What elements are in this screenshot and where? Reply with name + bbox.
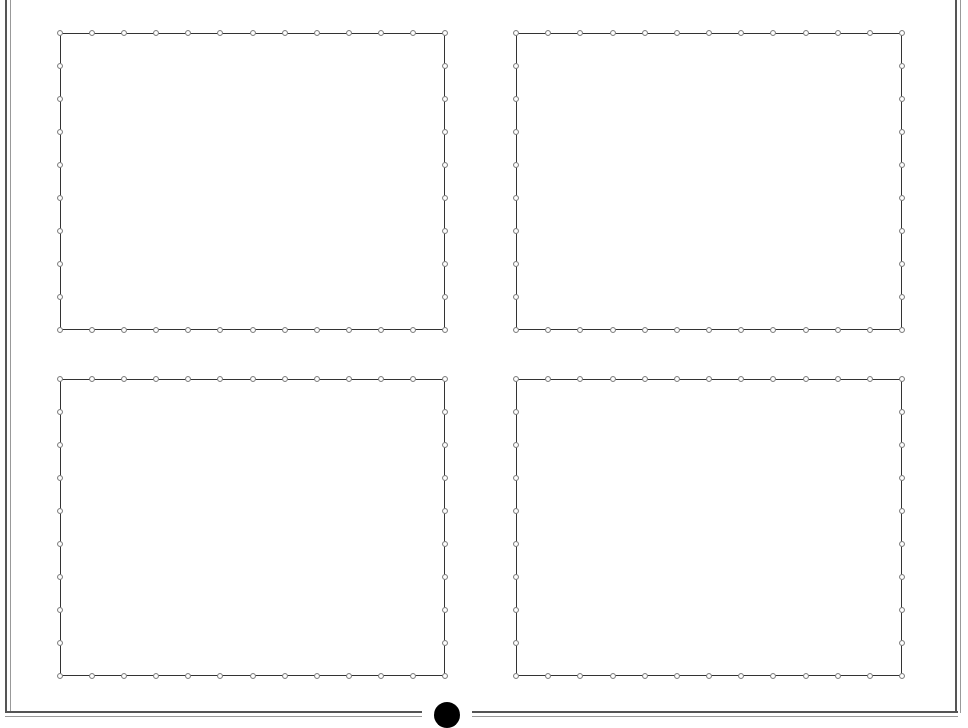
edge-marker-icon — [282, 376, 288, 382]
edge-marker-icon — [867, 673, 873, 679]
panel-top-left — [60, 33, 445, 330]
edge-marker-icon — [513, 640, 519, 646]
edge-marker-icon — [610, 376, 616, 382]
frame-bottom-border-left — [5, 711, 422, 717]
edge-marker-icon — [577, 673, 583, 679]
edge-marker-icon — [513, 376, 519, 382]
edge-marker-icon — [57, 574, 63, 580]
edge-marker-icon — [442, 195, 448, 201]
edge-marker-icon — [513, 228, 519, 234]
edge-marker-icon — [57, 63, 63, 69]
panel-bottom-left — [60, 379, 445, 676]
edge-marker-icon — [442, 574, 448, 580]
edge-marker-icon — [674, 376, 680, 382]
edge-marker-icon — [513, 294, 519, 300]
edge-marker-icon — [410, 30, 416, 36]
edge-marker-icon — [442, 541, 448, 547]
edge-marker-icon — [89, 673, 95, 679]
edge-marker-icon — [513, 30, 519, 36]
edge-marker-icon — [513, 195, 519, 201]
edge-marker-icon — [442, 228, 448, 234]
edge-marker-icon — [442, 129, 448, 135]
edge-marker-icon — [442, 442, 448, 448]
edge-marker-icon — [899, 376, 905, 382]
edge-marker-icon — [346, 327, 352, 333]
edge-marker-icon — [314, 376, 320, 382]
edge-marker-icon — [610, 673, 616, 679]
edge-marker-icon — [513, 129, 519, 135]
edge-marker-icon — [803, 327, 809, 333]
edge-marker-icon — [867, 327, 873, 333]
edge-marker-icon — [899, 574, 905, 580]
edge-marker-icon — [442, 673, 448, 679]
edge-marker-icon — [153, 327, 159, 333]
edge-marker-icon — [121, 673, 127, 679]
edge-marker-icon — [314, 673, 320, 679]
edge-marker-icon — [642, 327, 648, 333]
edge-marker-icon — [899, 96, 905, 102]
edge-marker-icon — [57, 607, 63, 613]
edge-marker-icon — [442, 327, 448, 333]
edge-marker-icon — [835, 327, 841, 333]
edge-marker-icon — [674, 327, 680, 333]
edge-marker-icon — [346, 376, 352, 382]
edge-marker-icon — [513, 673, 519, 679]
edge-marker-icon — [738, 327, 744, 333]
edge-marker-icon — [57, 30, 63, 36]
edge-marker-icon — [185, 327, 191, 333]
edge-marker-icon — [57, 294, 63, 300]
frame-left-border — [5, 0, 11, 713]
edge-marker-icon — [442, 63, 448, 69]
edge-marker-icon — [706, 673, 712, 679]
edge-marker-icon — [899, 228, 905, 234]
edge-marker-icon — [57, 409, 63, 415]
edge-marker-icon — [314, 327, 320, 333]
edge-marker-icon — [642, 673, 648, 679]
edge-marker-icon — [410, 673, 416, 679]
edge-marker-icon — [610, 327, 616, 333]
edge-marker-icon — [899, 195, 905, 201]
edge-marker-icon — [57, 673, 63, 679]
edge-marker-icon — [513, 508, 519, 514]
edge-marker-icon — [513, 541, 519, 547]
edge-marker-icon — [282, 673, 288, 679]
edge-marker-icon — [770, 327, 776, 333]
edge-marker-icon — [513, 327, 519, 333]
edge-marker-icon — [899, 607, 905, 613]
edge-marker-icon — [89, 327, 95, 333]
edge-marker-icon — [57, 376, 63, 382]
edge-marker-icon — [346, 673, 352, 679]
edge-marker-icon — [899, 541, 905, 547]
edge-marker-icon — [577, 327, 583, 333]
edge-marker-icon — [57, 261, 63, 267]
edge-marker-icon — [57, 96, 63, 102]
edge-marker-icon — [899, 409, 905, 415]
edge-marker-icon — [642, 30, 648, 36]
edge-marker-icon — [442, 475, 448, 481]
edge-marker-icon — [378, 376, 384, 382]
edge-marker-icon — [378, 327, 384, 333]
edge-marker-icon — [803, 30, 809, 36]
edge-marker-icon — [250, 376, 256, 382]
edge-marker-icon — [314, 30, 320, 36]
edge-marker-icon — [153, 673, 159, 679]
edge-marker-icon — [899, 475, 905, 481]
edge-marker-icon — [57, 228, 63, 234]
edge-marker-icon — [410, 376, 416, 382]
edge-marker-icon — [513, 261, 519, 267]
edge-marker-icon — [738, 673, 744, 679]
edge-marker-icon — [835, 673, 841, 679]
center-dot — [434, 702, 460, 728]
edge-marker-icon — [442, 261, 448, 267]
edge-marker-icon — [835, 30, 841, 36]
edge-marker-icon — [899, 162, 905, 168]
panel-bottom-right — [516, 379, 902, 676]
edge-marker-icon — [378, 30, 384, 36]
edge-marker-icon — [282, 30, 288, 36]
edge-marker-icon — [442, 162, 448, 168]
edge-marker-icon — [706, 30, 712, 36]
edge-marker-icon — [513, 409, 519, 415]
edge-marker-icon — [899, 673, 905, 679]
edge-marker-icon — [442, 30, 448, 36]
edge-marker-icon — [282, 327, 288, 333]
